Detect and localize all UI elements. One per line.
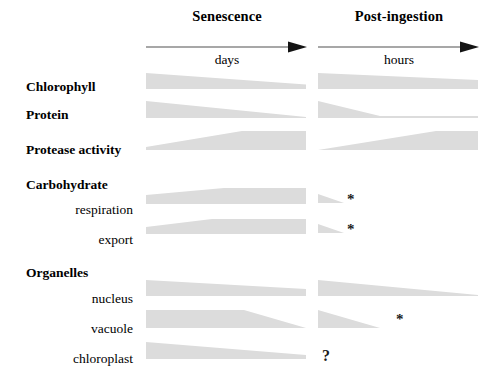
column-title-senescence: Senescence	[146, 8, 308, 25]
shape-chloroplast-senescence	[146, 342, 306, 362]
shape-nucleus-post-ingestion	[318, 280, 478, 300]
row-label-export: export	[0, 233, 133, 247]
shape-vacuole-post-ingestion	[318, 310, 398, 332]
shape-protease-activity-senescence	[146, 131, 306, 151]
asterisk-respiration-post-ingestion: *	[347, 192, 355, 207]
shape-protein-post-ingestion	[318, 101, 478, 119]
shape-protein-senescence	[146, 101, 306, 119]
row-label-nucleus: nucleus	[0, 292, 133, 306]
column-title-post-ingestion: Post-ingestion	[318, 8, 480, 25]
row-label-chloroplast: chloroplast	[0, 352, 133, 366]
row-label-protein: Protein	[26, 108, 69, 122]
shape-respiration-post-ingestion	[318, 192, 348, 206]
shape-vacuole-senescence	[146, 310, 306, 332]
row-label-carbohydrate: Carbohydrate	[26, 178, 108, 192]
asterisk-vacuole-post-ingestion: *	[396, 312, 404, 327]
row-label-chlorophyll: Chlorophyll	[26, 80, 96, 94]
row-label-vacuole: vacuole	[0, 322, 133, 336]
shape-chlorophyll-senescence	[146, 73, 306, 90]
row-label-protease-activity: Protease activity	[26, 143, 121, 157]
shape-chlorophyll-post-ingestion	[318, 73, 478, 90]
row-label-organelles: Organelles	[26, 266, 88, 280]
shape-protease-activity-post-ingestion	[318, 131, 478, 151]
asterisk-export-post-ingestion: *	[347, 222, 355, 237]
shape-nucleus-senescence	[146, 280, 306, 299]
shape-respiration-senescence	[146, 186, 306, 206]
axis-label-hours: hours	[318, 52, 480, 68]
axis-label-days: days	[146, 52, 308, 68]
shape-export-post-ingestion	[318, 222, 348, 236]
shape-export-senescence	[146, 216, 306, 236]
figure-canvas: Senescence Post-ingestion days hours Chl…	[0, 0, 493, 381]
row-label-respiration: respiration	[0, 203, 133, 217]
question-mark-chloroplast-post-ingestion: ?	[322, 348, 330, 364]
